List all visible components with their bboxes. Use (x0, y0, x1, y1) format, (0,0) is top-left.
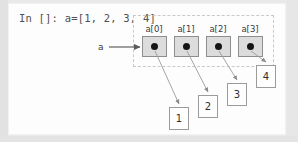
page-edge-left (0, 0, 8, 142)
array-cell-3 (238, 36, 263, 57)
page-edge-right (287, 0, 298, 142)
array-cell-label-3: a[3] (236, 24, 264, 34)
array-cell-label-0: a[0] (140, 24, 168, 34)
pointer-dot-icon (151, 43, 158, 50)
array-cell-label-1: a[1] (172, 24, 200, 34)
pointer-dot-icon (215, 43, 222, 50)
variable-label-a: a (98, 42, 104, 52)
pointer-dot-icon (247, 43, 254, 50)
value-box-0: 1 (169, 107, 189, 130)
page-edge-bottom (0, 136, 298, 142)
value-box-1: 2 (198, 95, 218, 118)
array-cell-0 (142, 36, 167, 57)
array-cell-2 (206, 36, 231, 57)
array-cell-1 (174, 36, 199, 57)
value-box-3: 4 (256, 65, 276, 88)
diagram-canvas: In []: a=[1, 2, 3, 4] a a[0]a[1]a[2]a[3]… (8, 3, 286, 135)
diagram-root: In []: a=[1, 2, 3, 4] a a[0]a[1]a[2]a[3]… (0, 0, 298, 142)
array-cell-label-2: a[2] (204, 24, 232, 34)
value-box-2: 3 (227, 83, 247, 106)
pointer-dot-icon (183, 43, 190, 50)
